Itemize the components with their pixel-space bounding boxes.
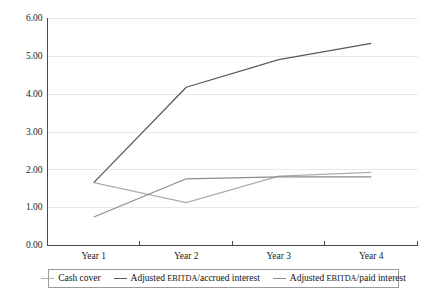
legend-label-acronym: EBITDA — [167, 274, 197, 283]
line-chart: 0.001.002.003.004.005.006.00 Year 1Year … — [0, 0, 447, 301]
y-axis-tick-label: 3.00 — [26, 127, 43, 137]
y-axis-tick-label: 4.00 — [26, 89, 43, 99]
y-axis-tick-label: 2.00 — [26, 165, 43, 175]
legend-entry[interactable]: Cash cover — [41, 274, 100, 284]
y-tick-labels: 0.001.002.003.004.005.006.00 — [26, 13, 43, 250]
series-line-2 — [94, 177, 372, 217]
chart-canvas: 0.001.002.003.004.005.006.00 Year 1Year … — [0, 0, 447, 262]
legend-label: Adjusted EBITDA/paid interest — [290, 274, 406, 284]
plot-area: 0.001.002.003.004.005.006.00 Year 1Year … — [0, 0, 447, 262]
x-axis-tick-label: Year 3 — [266, 251, 291, 261]
x-axis — [48, 241, 418, 246]
y-axis-tick-label: 1.00 — [26, 202, 43, 212]
x-axis-tick-label: Year 4 — [359, 251, 384, 261]
y-axis-tick-label: 5.00 — [26, 51, 43, 61]
legend-swatch-line-icon — [273, 278, 286, 279]
legend-swatch-line-icon — [114, 278, 127, 279]
gridlines — [48, 19, 418, 208]
legend-entry[interactable]: Adjusted EBITDA/accrued interest — [114, 274, 260, 284]
legend-label-acronym: EBITDA — [327, 274, 357, 283]
y-axis-tick-label: 0.00 — [26, 240, 43, 250]
chart-legend: Cash coverAdjusted EBITDA/accrued intere… — [48, 269, 399, 288]
x-tick-labels: Year 1Year 2Year 3Year 4 — [81, 251, 383, 261]
legend-swatch-line-icon — [41, 278, 54, 279]
legend-items: Cash coverAdjusted EBITDA/accrued intere… — [41, 274, 406, 284]
x-axis-tick-label: Year 1 — [81, 251, 106, 261]
data-series-group — [94, 43, 372, 217]
legend-entry[interactable]: Adjusted EBITDA/paid interest — [273, 274, 406, 284]
legend-label: Cash cover — [58, 274, 100, 284]
y-axis-tick-label: 6.00 — [26, 13, 43, 23]
legend-label: Adjusted EBITDA/accrued interest — [131, 274, 260, 284]
x-axis-tick-label: Year 2 — [174, 251, 199, 261]
series-line-1 — [94, 43, 372, 182]
